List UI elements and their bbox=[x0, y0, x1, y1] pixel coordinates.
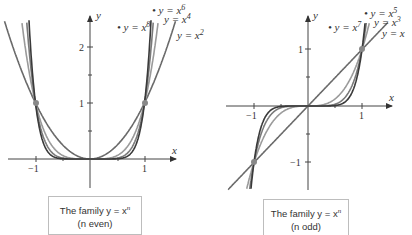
point-marker bbox=[359, 46, 365, 52]
y-axis-label: y bbox=[312, 9, 318, 21]
caption-even: The family y = xn (n even) bbox=[48, 196, 142, 235]
point-marker bbox=[251, 159, 257, 165]
chart-odd: −1 1 1 −1 x y • y = x5 y = x3 • y = x7 y… bbox=[226, 6, 405, 190]
svg-text:y = x2: y = x2 bbox=[176, 28, 204, 41]
x-axis-label: x bbox=[171, 144, 177, 156]
caption-odd: The family y = xn (n odd) bbox=[263, 199, 349, 235]
y-tick-label: 2 bbox=[79, 42, 84, 53]
y-axis-label: y bbox=[95, 9, 101, 21]
svg-text:y = x4: y = x4 bbox=[163, 12, 191, 25]
svg-text:• y = x8: • y = x8 bbox=[117, 20, 150, 33]
point-marker bbox=[142, 100, 148, 106]
x-tick-label: 1 bbox=[142, 163, 147, 174]
x-tick-label: 1 bbox=[359, 110, 364, 121]
legend-labels: • y = x6 y = x4 • y = x8 y = x2 bbox=[117, 3, 204, 41]
y-tick-label: 1 bbox=[79, 98, 84, 109]
x-axis-label: x bbox=[388, 91, 394, 103]
svg-text:• y = x7: • y = x7 bbox=[328, 20, 362, 33]
svg-text:y = x: y = x bbox=[381, 27, 405, 39]
point-marker bbox=[33, 100, 39, 106]
x-tick-label: −1 bbox=[28, 163, 39, 174]
chart-even: −1 1 1 2 x y • y = x6 y = x4 • y = x8 y … bbox=[5, 3, 204, 188]
y-tick-label: 1 bbox=[298, 44, 303, 55]
x-tick-label: −1 bbox=[246, 110, 257, 121]
y-tick-label: −1 bbox=[290, 157, 301, 168]
